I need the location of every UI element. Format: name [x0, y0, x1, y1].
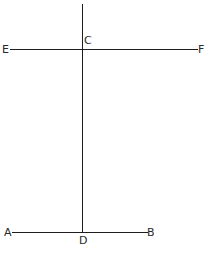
line-cd — [82, 4, 84, 233]
label-f: F — [198, 44, 204, 55]
label-e: E — [2, 44, 9, 55]
label-d: D — [79, 235, 87, 246]
line-ef — [10, 49, 198, 51]
geometry-diagram: E F C A B D — [0, 0, 208, 254]
label-a: A — [4, 227, 12, 238]
label-c: C — [84, 35, 92, 46]
label-b: B — [147, 227, 155, 238]
line-ab — [12, 232, 148, 234]
